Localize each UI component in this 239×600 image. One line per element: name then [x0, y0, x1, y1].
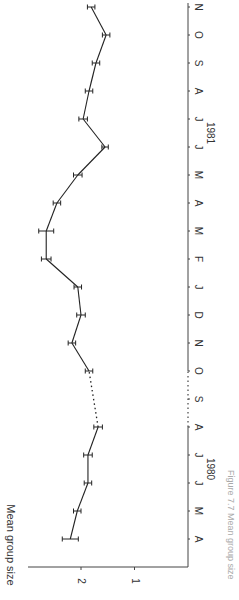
series-line — [39, 5, 110, 542]
series-segment — [91, 7, 106, 35]
axis-labels: 12AMJJASONDJFMAMJJASON19801981Mean group… — [5, 3, 236, 585]
chart: 12AMJJASONDJFMAMJJASON19801981Mean group… — [0, 0, 239, 600]
month-label: F — [193, 256, 204, 262]
month-label: S — [193, 396, 204, 403]
series-segment — [89, 63, 96, 91]
series-segment — [83, 91, 89, 119]
axes — [28, 3, 190, 570]
series-segment — [72, 343, 89, 371]
month-label: M — [193, 171, 204, 179]
series-segment — [78, 287, 81, 315]
series-segment — [77, 483, 88, 511]
series-segment — [88, 427, 98, 455]
figure-caption: Figure 7.7 Mean group size — [226, 470, 236, 580]
month-label: M — [193, 507, 204, 515]
year-label: 1980 — [205, 458, 216, 481]
value-tick-label: 2 — [76, 578, 87, 584]
month-label: A — [193, 88, 204, 95]
month-label: A — [193, 536, 204, 543]
series-segment — [46, 259, 78, 287]
month-label: N — [193, 339, 204, 346]
month-label: J — [193, 117, 204, 122]
month-label: S — [193, 60, 204, 67]
value-tick-label: 1 — [130, 578, 141, 584]
month-label: O — [193, 367, 204, 375]
month-label: N — [193, 3, 204, 10]
month-label: O — [193, 31, 204, 39]
month-label: J — [193, 481, 204, 486]
month-label: D — [193, 311, 204, 318]
y-axis-title: Mean group size — [5, 504, 17, 585]
month-label: J — [193, 145, 204, 150]
series-segment — [70, 511, 77, 539]
month-label: J — [193, 285, 204, 290]
month-label: A — [193, 200, 204, 207]
series-gap-dotted — [89, 371, 98, 427]
series-segment — [46, 203, 57, 231]
series-segment — [78, 147, 105, 175]
month-label: A — [193, 424, 204, 431]
series-segment — [57, 175, 78, 203]
year-label: 1981 — [205, 122, 216, 145]
series-segment — [72, 315, 81, 343]
series-segment — [83, 119, 105, 147]
month-label: J — [193, 453, 204, 458]
month-label: M — [193, 227, 204, 235]
series-segment — [96, 35, 106, 63]
